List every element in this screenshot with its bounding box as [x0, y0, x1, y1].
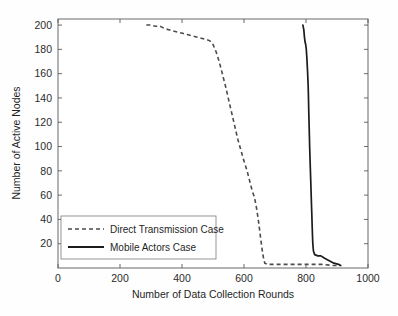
y-tick-label: 200	[34, 19, 52, 31]
line-chart: 02004006008001000 2040608010012014016018…	[0, 0, 398, 316]
x-tick-label: 400	[173, 272, 191, 284]
y-tick-label: 140	[34, 92, 52, 104]
x-tick-label: 800	[297, 272, 315, 284]
legend-label-direct-transmission: Direct Transmission Case	[110, 224, 224, 235]
x-axis-title: Number of Data Collection Rounds	[132, 288, 294, 300]
x-tick-label: 0	[55, 272, 61, 284]
y-tick-label: 100	[34, 140, 52, 152]
y-axis-title: Number of Active Nodes	[10, 86, 22, 199]
legend-label-mobile-actors: Mobile Actors Case	[110, 242, 197, 253]
chart-figure: 02004006008001000 2040608010012014016018…	[0, 0, 398, 316]
legend: Direct Transmission Case Mobile Actors C…	[61, 216, 224, 259]
y-tick-label: 180	[34, 43, 52, 55]
y-tick-label: 120	[34, 116, 52, 128]
y-tick-label: 80	[40, 165, 52, 177]
x-tick-label: 200	[111, 272, 129, 284]
x-tick-label: 1000	[356, 272, 380, 284]
y-tick-label: 60	[40, 189, 52, 201]
x-tick-label: 600	[235, 272, 253, 284]
y-tick-label: 40	[40, 213, 52, 225]
y-tick-label: 20	[40, 237, 52, 249]
y-tick-label: 160	[34, 67, 52, 79]
legend-box	[61, 216, 216, 259]
